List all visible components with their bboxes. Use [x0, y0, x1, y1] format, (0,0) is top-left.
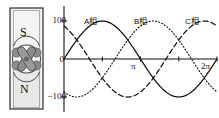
rotor-shaft [25, 57, 29, 61]
three-phase-generator-figure: S N 100 0 −100 π 2π A相 B相 C相 [0, 0, 219, 118]
y-tick-label-100: 100 [46, 16, 66, 25]
north-pole-label: N [20, 83, 29, 95]
x-tick-label-pi: π [131, 62, 136, 71]
y-tick-label-0: 0 [54, 55, 64, 64]
phase-label-c: C相 [185, 18, 199, 26]
x-tick-label-2pi: 2π [201, 62, 210, 71]
y-tick-label-neg100: −100 [42, 92, 66, 101]
phase-label-a: A相 [84, 18, 97, 26]
phase-label-b: B相 [134, 18, 147, 26]
south-pole-label: S [20, 26, 27, 38]
